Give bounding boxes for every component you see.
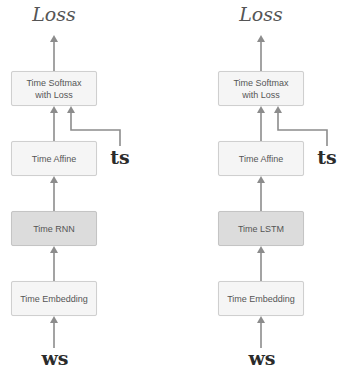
layer-label: Time Softmax with Loss: [233, 77, 288, 101]
time-rnn-layer: Time RNN: [11, 211, 97, 246]
ws-input-label: ws: [41, 347, 68, 369]
ts-target-label: ts: [110, 146, 129, 168]
time-embedding-layer: Time Embedding: [218, 281, 304, 316]
ts-target-label: ts: [317, 146, 336, 168]
time-softmax-with-loss-layer: Time Softmax with Loss: [218, 71, 304, 106]
time-affine-layer: Time Affine: [11, 141, 97, 176]
layer-label: Time RNN: [33, 223, 75, 235]
layer-label: Time Embedding: [227, 293, 295, 305]
ws-input-label: ws: [248, 347, 275, 369]
loss-output-label: Loss: [32, 3, 76, 25]
lstm-lm-arrows: [175, 0, 350, 381]
rnnlm-diagram: Loss Time Softmax with Loss Time Affine …: [0, 0, 175, 381]
time-affine-layer: Time Affine: [218, 141, 304, 176]
rnnlm-arrows: [0, 0, 175, 381]
layer-label: Time Embedding: [20, 293, 88, 305]
layer-label: Time Affine: [32, 153, 77, 165]
loss-output-label: Loss: [239, 3, 283, 25]
layer-label: Time Affine: [239, 153, 284, 165]
lstm-lm-diagram: Loss Time Softmax with Loss Time Affine …: [175, 0, 350, 381]
layer-label: Time LSTM: [238, 223, 284, 235]
time-embedding-layer: Time Embedding: [11, 281, 97, 316]
layer-label: Time Softmax with Loss: [26, 77, 81, 101]
time-softmax-with-loss-layer: Time Softmax with Loss: [11, 71, 97, 106]
time-lstm-layer: Time LSTM: [218, 211, 304, 246]
